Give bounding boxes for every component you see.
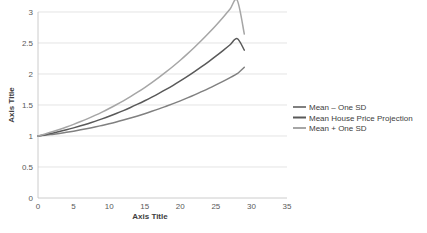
y-axis-title: Axis Title [7,87,16,123]
y-tick-label: 3 [29,8,34,17]
x-tick-label: 15 [140,202,149,211]
y-tick-label: 1.5 [22,101,34,110]
series-line [38,39,244,136]
y-axis-tick-labels: 00.511.522.53 [22,8,34,203]
chart-container: 00.511.522.53 05101520253035 Axis Title … [0,0,427,233]
x-tick-label: 10 [105,202,114,211]
legend: Mean – One SDMean House Price Projection… [293,103,413,133]
series-lines [38,0,244,136]
legend-label: Mean – One SD [309,103,367,112]
x-tick-label: 35 [283,202,292,211]
legend-label: Mean + One SD [309,124,367,133]
series-line [38,0,244,136]
x-axis-title: Axis Title [132,212,168,221]
gridlines [38,12,287,167]
x-tick-label: 20 [176,202,185,211]
x-tick-label: 5 [71,202,76,211]
house-price-projection-chart: 00.511.522.53 05101520253035 Axis Title … [0,0,427,233]
y-tick-label: 1 [29,132,34,141]
x-axis-tick-labels: 05101520253035 [36,202,292,211]
x-tick-label: 30 [247,202,256,211]
y-tick-label: 0 [29,194,34,203]
x-tick-label: 25 [211,202,220,211]
legend-label: Mean House Price Projection [309,114,413,123]
y-tick-label: 2.5 [22,39,34,48]
y-tick-label: 0.5 [22,163,34,172]
y-tick-label: 2 [29,70,34,79]
x-tick-label: 0 [36,202,41,211]
